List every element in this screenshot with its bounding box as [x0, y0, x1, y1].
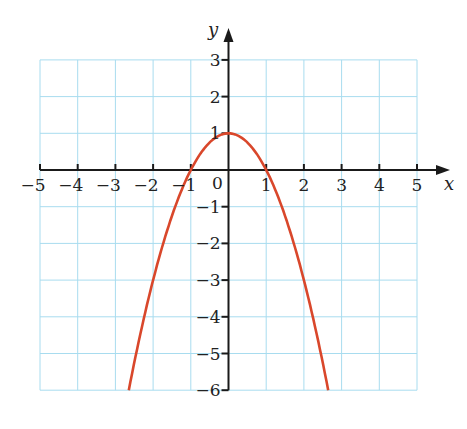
- y-tick-label: −6: [195, 380, 220, 400]
- y-axis-label: y: [207, 19, 219, 40]
- x-tick-label: −1: [171, 175, 196, 195]
- origin-label: 0: [212, 173, 223, 193]
- x-tick-label: 1: [261, 175, 272, 195]
- tick-labels: −5−4−3−2−112345321−1−2−3−4−5−6: [20, 50, 422, 400]
- x-axis-label: x: [444, 173, 454, 194]
- x-tick-label: −3: [96, 175, 121, 195]
- x-tick-label: 4: [374, 175, 385, 195]
- y-tick-label: −2: [195, 233, 220, 253]
- x-tick-label: −4: [58, 175, 83, 195]
- x-tick-label: 2: [298, 175, 309, 195]
- x-tick-label: 5: [412, 175, 423, 195]
- parabola-chart: −5−4−3−2−112345321−1−2−3−4−5−6 x y 0: [0, 0, 467, 429]
- y-tick-label: −1: [195, 197, 220, 217]
- y-tick-label: 3: [210, 50, 221, 70]
- axes: [40, 28, 450, 390]
- y-tick-label: 1: [210, 123, 221, 143]
- y-tick-label: −3: [195, 270, 220, 290]
- x-tick-label: −5: [20, 175, 45, 195]
- x-tick-label: −2: [134, 175, 159, 195]
- x-tick-label: 3: [336, 175, 347, 195]
- y-tick-label: −4: [195, 307, 220, 327]
- y-tick-label: 2: [210, 87, 221, 107]
- y-tick-label: −5: [195, 344, 220, 364]
